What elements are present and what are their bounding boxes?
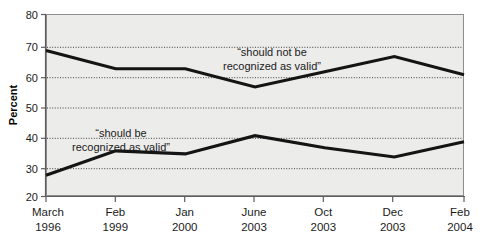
x-tick-label-6-month: Feb: [450, 206, 470, 218]
x-axis: [45, 197, 465, 203]
y-tick-label-80: 80: [26, 9, 38, 21]
x-tick-label-5-month: Dec: [382, 206, 403, 218]
y-tick-label-40: 40: [26, 132, 38, 144]
x-tick-label-3-month: June: [242, 206, 267, 218]
x-tick-label-4-month: Oct: [314, 206, 333, 218]
y-tick-labels: 80 70 60 50 40 30 20: [26, 9, 38, 203]
x-tick-label-3-year: 2003: [241, 221, 267, 233]
y-axis-title: Percent: [7, 84, 19, 125]
line-chart: 80 70 60 50 40 30 20 Percent March 1996 …: [0, 0, 482, 248]
y-axis: [41, 14, 46, 197]
y-tick-label-30: 30: [26, 163, 38, 175]
annotation-upper-line-2: recognized as valid”: [223, 60, 321, 72]
x-tick-label-0-month: March: [32, 206, 64, 218]
y-tick-label-20: 20: [26, 191, 38, 203]
chart-canvas: 80 70 60 50 40 30 20 Percent March 1996 …: [0, 0, 482, 248]
x-tick-label-2-year: 2000: [172, 221, 198, 233]
x-tick-label-1-month: Feb: [105, 206, 125, 218]
y-tick-label-60: 60: [26, 72, 38, 84]
x-tick-labels: March 1996 Feb 1999 Jan 2000 June 2003 O…: [32, 206, 473, 233]
annotation-lower-line-1: “should be: [95, 127, 146, 139]
x-tick-label-6-year: 2004: [447, 221, 473, 233]
annotation-upper-line-1: “should not be: [237, 46, 307, 58]
x-tick-label-1-year: 1999: [103, 221, 129, 233]
x-tick-label-4-year: 2003: [311, 221, 337, 233]
x-tick-label-0-year: 1996: [35, 221, 61, 233]
annotation-lower-line-2: recognized as valid”: [72, 141, 170, 153]
x-tick-label-5-year: 2003: [380, 221, 406, 233]
x-tick-label-2-month: Jan: [175, 206, 194, 218]
y-tick-label-50: 50: [26, 102, 38, 114]
y-tick-label-70: 70: [26, 41, 38, 53]
